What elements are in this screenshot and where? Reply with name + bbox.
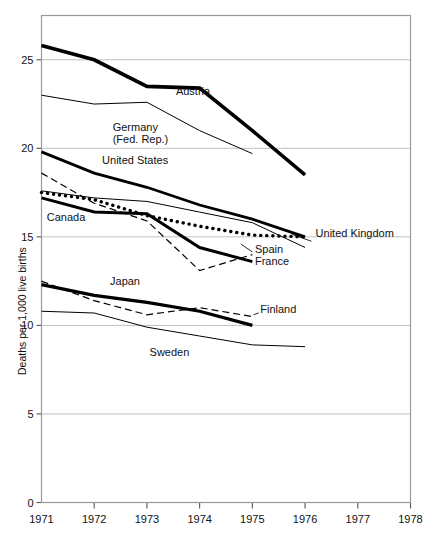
annotation-austria: Austria: [176, 85, 211, 97]
annotation-canada: Canada: [47, 211, 86, 223]
x-tick-label-1977: 1977: [346, 513, 370, 525]
annotation-france: France: [255, 255, 289, 267]
series-line-japan: [42, 285, 253, 326]
y-tick-label-15: 15: [21, 231, 33, 243]
y-tick-label-10: 10: [21, 319, 33, 331]
series-lines: [42, 46, 306, 347]
y-axis-ticks: 0510152025: [21, 54, 41, 509]
series-line-france: [42, 198, 253, 262]
x-tick-label-1976: 1976: [293, 513, 317, 525]
series-line-united-states: [42, 152, 306, 237]
y-tick-label-20: 20: [21, 142, 33, 154]
line-chart: 0510152025 19711972197319741975197619771…: [0, 0, 430, 537]
annotation-finland: Finland: [260, 303, 296, 315]
x-tick-label-1973: 1973: [135, 513, 159, 525]
annotation-sweden: Sweden: [150, 346, 190, 358]
y-tick-label-0: 0: [27, 497, 33, 509]
x-tick-label-1974: 1974: [187, 513, 211, 525]
annotation-japan: Japan: [110, 275, 140, 287]
series-line-sweden: [42, 311, 306, 346]
y-tick-label-25: 25: [21, 54, 33, 66]
annotation-germany-fed-rep: Germany(Fed. Rep.): [113, 121, 169, 145]
finland-leader: [253, 313, 258, 315]
x-tick-label-1978: 1978: [398, 513, 422, 525]
annotation-united-states: United States: [102, 154, 169, 166]
x-tick-label-1975: 1975: [240, 513, 264, 525]
x-tick-label-1972: 1972: [82, 513, 106, 525]
y-tick-label-5: 5: [27, 408, 33, 420]
plot-frame: [42, 16, 411, 503]
x-tick-label-1971: 1971: [29, 513, 53, 525]
chart-page: Deaths per 1,000 live births 0510152025 …: [0, 0, 430, 537]
spain-leader: [241, 244, 253, 252]
series-line-austria: [42, 46, 306, 175]
series-line-finland: [42, 281, 253, 316]
x-axis-ticks: 19711972197319741975197619771978: [29, 503, 422, 525]
annotation-spain: Spain: [255, 243, 283, 255]
annotation-united-kingdom: United Kingdom: [316, 227, 394, 239]
